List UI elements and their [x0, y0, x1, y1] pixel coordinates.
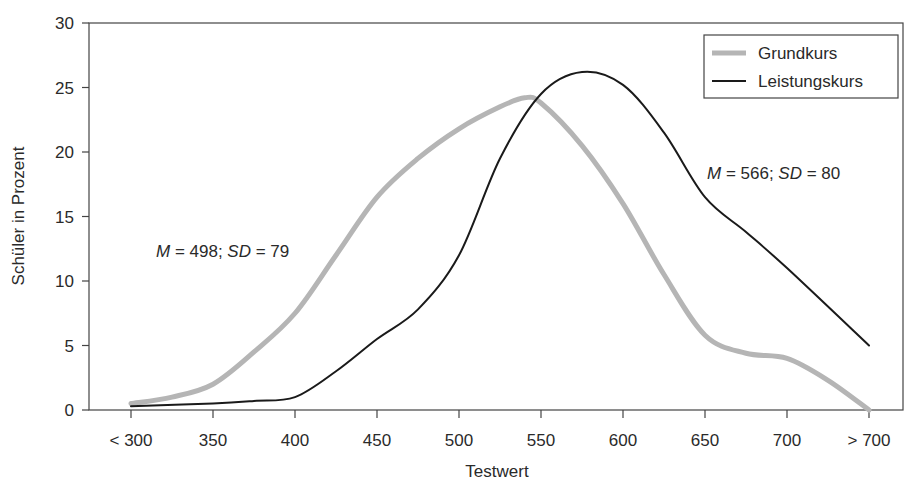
x-tick-label: 700 — [773, 431, 801, 450]
y-tick-label: 25 — [55, 79, 74, 98]
y-tick-label: 20 — [55, 143, 74, 162]
annotation-m-label: M — [156, 242, 171, 261]
annotation-sd-value: = 79 — [251, 242, 289, 261]
x-tick-label: 450 — [363, 431, 391, 450]
x-tick-label: 500 — [445, 431, 473, 450]
x-tick-label: 600 — [609, 431, 637, 450]
y-tick-label: 15 — [55, 208, 74, 227]
y-tick-label: 30 — [55, 14, 74, 33]
x-tick-label: 400 — [281, 431, 309, 450]
y-axis: 051015202530 — [55, 14, 89, 420]
annotation-grundkurs: M = 498; SD = 79 — [156, 242, 289, 261]
x-tick-label: < 300 — [109, 431, 152, 450]
annotation-sd-label: SD — [778, 164, 802, 183]
x-axis: < 300350400450500550600650700> 700 — [109, 410, 890, 450]
y-tick-label: 0 — [65, 401, 74, 420]
x-axis-title: Testwert — [465, 462, 529, 481]
annotation-leistungskurs: M = 566; SD = 80 — [707, 164, 840, 183]
annotation-m-value: = 566; — [721, 164, 778, 183]
annotation-m-value: = 498; — [170, 242, 227, 261]
annotation-sd-value: = 80 — [802, 164, 840, 183]
legend-label-grundkurs: Grundkurs — [758, 44, 837, 63]
x-tick-label: 350 — [199, 431, 227, 450]
y-tick-label: 5 — [65, 337, 74, 356]
x-tick-label: > 700 — [847, 431, 890, 450]
y-axis-title: Schüler in Prozent — [9, 146, 28, 285]
series-lines — [131, 72, 869, 410]
legend-label-leistungskurs: Leistungskurs — [758, 72, 863, 91]
legend: Grundkurs Leistungskurs — [704, 35, 898, 98]
annotation-sd-label: SD — [227, 242, 251, 261]
x-tick-label: 650 — [691, 431, 719, 450]
y-tick-label: 10 — [55, 272, 74, 291]
x-tick-label: 550 — [527, 431, 555, 450]
annotation-m-label: M — [707, 164, 722, 183]
line-chart: 051015202530 < 3003504004505005506006507… — [0, 0, 923, 490]
